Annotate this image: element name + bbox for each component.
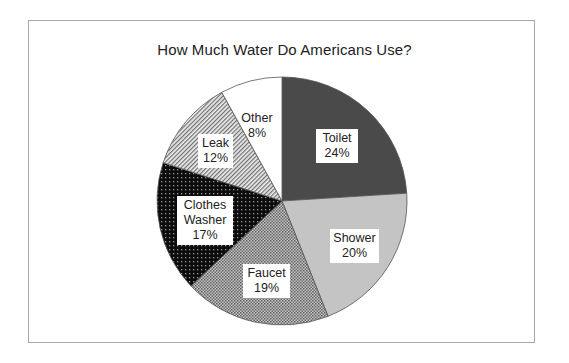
label-faucet: Faucet 19% (243, 264, 290, 298)
label-leak-name: Leak (201, 136, 230, 151)
label-faucet-pct: 19% (246, 281, 287, 296)
pie-chart (0, 0, 569, 363)
label-leak: Leak 12% (198, 134, 233, 168)
label-washer-pct: 17% (180, 228, 230, 243)
label-other: Other 8% (238, 109, 276, 143)
label-leak-pct: 12% (201, 151, 230, 166)
label-shower-pct: 20% (333, 246, 376, 261)
label-clothes-washer: Clothes Washer 17% (177, 196, 233, 245)
label-toilet: Toilet 24% (316, 129, 358, 163)
label-toilet-name: Toilet (319, 131, 355, 146)
label-washer-line2: Washer (180, 213, 230, 228)
label-toilet-pct: 24% (319, 146, 355, 161)
label-other-pct: 8% (241, 126, 273, 141)
label-faucet-name: Faucet (246, 266, 287, 281)
label-other-name: Other (241, 111, 273, 126)
label-washer-line1: Clothes (180, 198, 230, 213)
label-shower-name: Shower (333, 231, 376, 246)
label-shower: Shower 20% (330, 229, 379, 263)
